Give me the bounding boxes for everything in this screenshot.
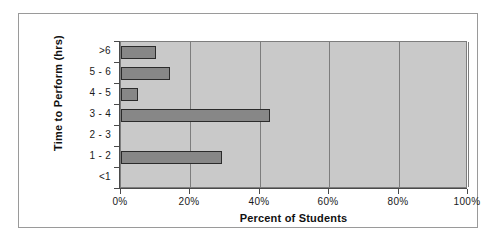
x-axis-tick-label: 60% (306, 196, 350, 207)
y-axis-tick-labels: <11 - 22 - 33 - 44 - 55 - 6>6 (57, 41, 111, 188)
x-axis-tick-label: 40% (237, 196, 281, 207)
y-axis-tick-label: 2 - 3 (57, 129, 111, 140)
gridline (468, 42, 469, 187)
bar-series (121, 42, 466, 187)
y-axis-tick (114, 41, 119, 42)
bar-row (121, 105, 466, 126)
x-axis-tick-label: 100% (445, 196, 489, 207)
bar (121, 67, 170, 80)
x-axis-tick (259, 189, 260, 194)
bar-row (121, 84, 466, 105)
bar-row (121, 147, 466, 168)
y-axis-tick (114, 188, 119, 189)
bar (121, 151, 222, 164)
y-axis-tick-label: >6 (57, 45, 111, 56)
y-axis-tick (114, 146, 119, 147)
bar-row (121, 42, 466, 63)
bar (121, 109, 270, 122)
chart-frame: <11 - 22 - 33 - 44 - 55 - 6>6 Time to Pe… (18, 13, 478, 228)
bar (121, 46, 156, 59)
chart-figure: <11 - 22 - 33 - 44 - 55 - 6>6 Time to Pe… (0, 0, 492, 244)
x-axis-tick-label: 0% (98, 196, 142, 207)
x-axis-line (120, 188, 467, 189)
x-axis-tick (189, 189, 190, 194)
y-axis-tick (114, 83, 119, 84)
x-axis-tick (120, 189, 121, 194)
y-axis-line (119, 41, 120, 189)
bar (121, 88, 138, 101)
y-axis-tick (114, 62, 119, 63)
x-axis-tick (467, 189, 468, 194)
x-axis-title: Percent of Students (120, 212, 467, 224)
y-axis-tick-label: <1 (57, 171, 111, 182)
x-axis-tick (328, 189, 329, 194)
bar-row (121, 168, 466, 189)
bar-row (121, 63, 466, 84)
y-axis-tick-label: 5 - 6 (57, 66, 111, 77)
plot-area (120, 41, 467, 188)
y-axis-tick (114, 167, 119, 168)
y-axis-tick-label: 3 - 4 (57, 108, 111, 119)
y-axis-tick-label: 1 - 2 (57, 150, 111, 161)
y-axis-title: Time to Perform (hrs) (52, 13, 64, 173)
y-axis-tick (114, 104, 119, 105)
x-axis-tick (398, 189, 399, 194)
x-axis-tick-label: 80% (376, 196, 420, 207)
bar-row (121, 126, 466, 147)
y-axis-tick-label: 4 - 5 (57, 87, 111, 98)
y-axis-tick (114, 125, 119, 126)
x-axis-tick-label: 20% (167, 196, 211, 207)
